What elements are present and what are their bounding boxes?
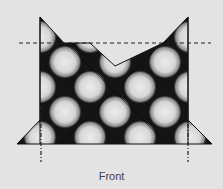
fabric-fold-diagram: [0, 0, 223, 189]
fabric-shape: [17, 17, 212, 144]
diagram-caption: Front: [0, 170, 223, 182]
